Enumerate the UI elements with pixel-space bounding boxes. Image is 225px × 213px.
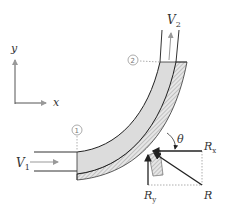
pipe-bend-diagram: y x V1 V2 2 1 θ Rx Ry R (0, 0, 225, 213)
x-axis-label: x (53, 96, 60, 109)
theta-label: θ (177, 133, 184, 146)
svg-text:1: 1 (75, 127, 79, 135)
y-axis-label: y (10, 42, 18, 55)
outlet-velocity-label: V2 (167, 13, 181, 29)
section-2-leader (140, 61, 160, 62)
svg-text:2: 2 (131, 57, 135, 65)
outlet-stream-right (176, 30, 179, 62)
outlet-stream-left (160, 30, 162, 62)
coordinate-axes: y x (10, 42, 60, 109)
inlet-velocity-label: V1 (16, 156, 30, 172)
rx-label: Rx (203, 140, 216, 155)
r-label: R (203, 189, 212, 202)
outlet-velocity-arrow-icon (169, 33, 171, 60)
ry-label: Ry (143, 189, 156, 204)
theta-arc-icon (167, 133, 175, 149)
